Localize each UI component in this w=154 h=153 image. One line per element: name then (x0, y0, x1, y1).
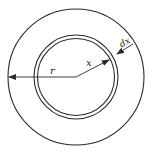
radius-x-arrow (76, 60, 109, 77)
ring-element-diagram: r x dx (0, 0, 154, 153)
label-dx: dx (118, 35, 132, 49)
label-r: r (50, 65, 56, 76)
label-x: x (86, 57, 92, 68)
